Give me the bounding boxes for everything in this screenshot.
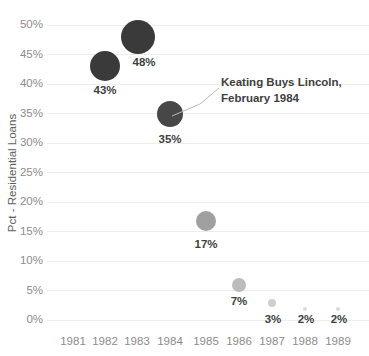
bubble-1987[interactable] <box>268 299 276 307</box>
x-axis-ticks: 1981 1982 1983 1984 1985 1986 1987 1988 … <box>60 335 351 347</box>
bubble-1989[interactable] <box>336 307 340 311</box>
ytick-label: 15% <box>20 225 43 237</box>
ytick-label: 40% <box>20 77 43 89</box>
data-label-1986: 7% <box>231 295 248 307</box>
xtick-label-1986: 1986 <box>226 335 252 347</box>
data-points <box>90 20 340 311</box>
xtick-label-1983: 1983 <box>124 335 150 347</box>
data-label-1987: 3% <box>265 313 282 325</box>
data-label-1989: 2% <box>331 313 348 325</box>
annotation-keating: Keating Buys Lincoln, February 1984 <box>172 76 342 116</box>
y-axis-title: Pct - Residential Loans <box>6 114 18 233</box>
data-label-1982: 43% <box>93 84 116 96</box>
annotation-line-2: February 1984 <box>221 92 300 104</box>
ytick-label: 35% <box>20 107 43 119</box>
xtick-label-1987: 1987 <box>259 335 285 347</box>
bubble-chart: 50% 45% 40% 35% 30% 25% 20% 15% 10% 5% 0… <box>0 0 369 356</box>
ytick-label: 25% <box>20 166 43 178</box>
xtick-label-1984: 1984 <box>157 335 183 347</box>
data-label-1984: 35% <box>158 133 181 145</box>
xtick-label-1988: 1988 <box>292 335 318 347</box>
bubble-1983[interactable] <box>121 20 155 54</box>
annotation-line-1: Keating Buys Lincoln, <box>221 76 342 88</box>
xtick-label-1989: 1989 <box>325 335 351 347</box>
xtick-label-1982: 1982 <box>92 335 118 347</box>
xtick-label-1981: 1981 <box>60 335 86 347</box>
data-label-1988: 2% <box>298 313 315 325</box>
bubble-1985[interactable] <box>196 211 216 231</box>
xtick-label-1985: 1985 <box>193 335 219 347</box>
ytick-label: 50% <box>20 18 43 30</box>
ytick-label: 45% <box>20 48 43 60</box>
y-axis-ticks: 50% 45% 40% 35% 30% 25% 20% 15% 10% 5% 0… <box>20 18 43 325</box>
bubble-1982[interactable] <box>90 51 120 81</box>
bubble-1984[interactable] <box>157 101 183 127</box>
ytick-label: 5% <box>26 284 43 296</box>
ytick-label: 20% <box>20 195 43 207</box>
y-axis-title-group: Pct - Residential Loans <box>6 114 18 233</box>
chart-canvas: 50% 45% 40% 35% 30% 25% 20% 15% 10% 5% 0… <box>0 0 369 356</box>
data-label-1985: 17% <box>194 238 217 250</box>
data-label-1983: 48% <box>132 56 155 68</box>
bubble-1988[interactable] <box>303 307 307 311</box>
bubble-1986[interactable] <box>232 278 246 292</box>
ytick-label: 30% <box>20 136 43 148</box>
ytick-label: 0% <box>26 313 43 325</box>
ytick-label: 10% <box>20 254 43 266</box>
